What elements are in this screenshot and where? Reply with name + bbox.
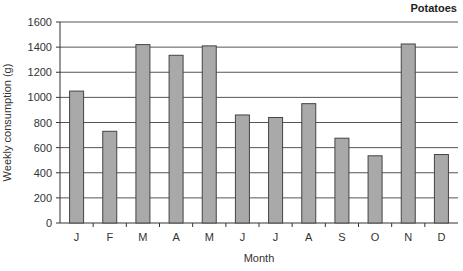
bar <box>169 55 183 223</box>
bar <box>202 46 216 223</box>
x-tick-label: M <box>205 231 214 243</box>
y-tick-label: 600 <box>34 142 52 154</box>
x-tick-label: A <box>172 231 180 243</box>
x-tick-label: J <box>74 231 80 243</box>
y-tick-label: 1400 <box>28 41 52 53</box>
bar <box>103 131 117 223</box>
x-tick-label: S <box>338 231 345 243</box>
y-tick-label: 800 <box>34 117 52 129</box>
x-tick-label: M <box>138 231 147 243</box>
x-tick-label: O <box>371 231 380 243</box>
x-tick-label: N <box>404 231 412 243</box>
bar <box>335 138 349 223</box>
y-axis-title: Weekly consumption (g) <box>1 64 13 182</box>
bar <box>302 104 316 223</box>
bar-chart: 02004006008001000120014001600JFMAMJJASON… <box>0 0 463 271</box>
bar <box>434 155 448 223</box>
y-tick-label: 400 <box>34 167 52 179</box>
x-tick-label: F <box>106 231 113 243</box>
y-tick-label: 0 <box>46 217 52 229</box>
bar <box>269 117 283 223</box>
x-tick-label: D <box>437 231 445 243</box>
y-tick-label: 1600 <box>28 16 52 28</box>
y-tick-label: 1200 <box>28 66 52 78</box>
bar <box>70 91 84 223</box>
x-tick-label: A <box>305 231 313 243</box>
bar <box>368 156 382 223</box>
bar <box>401 44 415 223</box>
y-tick-label: 1000 <box>28 91 52 103</box>
bar <box>136 45 150 223</box>
x-axis-title: Month <box>244 252 275 264</box>
x-tick-label: J <box>273 231 279 243</box>
x-tick-label: J <box>240 231 246 243</box>
y-tick-label: 200 <box>34 192 52 204</box>
bar <box>235 115 249 223</box>
